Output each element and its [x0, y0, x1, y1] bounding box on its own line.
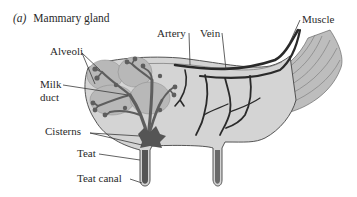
label-milk-duct-line2: duct [40, 91, 59, 103]
leader-teat [99, 154, 140, 160]
teat-cistern-left [142, 150, 148, 184]
label-alveoli: Alveoli [50, 45, 83, 57]
label-vein: Vein [200, 27, 221, 39]
label-teat: Teat [77, 147, 96, 159]
teat-cistern-right [215, 150, 220, 184]
label-teat-canal: Teat canal [77, 172, 122, 184]
label-muscle: Muscle [302, 13, 335, 25]
panel-letter: (a) [13, 12, 27, 25]
label-milk-duct-line1: Milk [40, 78, 62, 90]
mammary-gland-diagram: (a) Mammary gland [0, 0, 357, 197]
title-text: Mammary gland [33, 12, 110, 25]
label-artery: Artery [157, 27, 186, 39]
label-cisterns: Cisterns [45, 125, 81, 137]
figure-title: (a) Mammary gland [13, 12, 110, 25]
